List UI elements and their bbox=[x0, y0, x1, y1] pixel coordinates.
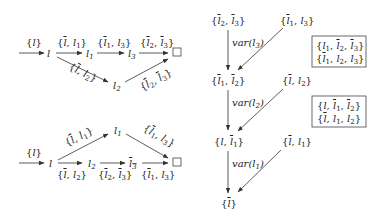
node-l1: l1 bbox=[86, 48, 94, 61]
node-lbar-l1: {l, l1} bbox=[282, 136, 312, 149]
var-label-l1: var(l1) bbox=[232, 158, 264, 171]
diagram-canvas: {l} l {l, l1} l1 {l1, l3} l3 {l2, l3} {l… bbox=[0, 0, 383, 220]
node-end-square bbox=[173, 48, 181, 56]
node-l2: l2 bbox=[88, 158, 96, 171]
node-l: l bbox=[47, 48, 50, 59]
edge-label: {l, l2} bbox=[57, 169, 87, 182]
top-left-graph: {l} l {l, l1} l1 {l1, l3} l3 {l2, l3} {l… bbox=[19, 37, 181, 94]
edge-label: {l2, l3} bbox=[140, 37, 174, 50]
edge-label: {l2, l3} bbox=[138, 67, 175, 95]
var-label-l3: var(l3) bbox=[232, 37, 264, 50]
node-l3: l3 bbox=[128, 48, 136, 61]
node-lbar: {l} bbox=[221, 198, 237, 209]
edge-diag-3 bbox=[238, 150, 281, 192]
edge-diag-2 bbox=[238, 89, 283, 131]
var-label-l2: var(l2) bbox=[232, 97, 264, 110]
right-lattice: {l2, l3} {l1, l3} var(l3) {l1, l2, l3} {… bbox=[211, 15, 366, 209]
bottom-left-graph: {l} l {l, l1} l1 {l1, l3} {l, l2} l2 {l2… bbox=[19, 122, 181, 182]
clause-box-2-line-2: {l, l1, l2} bbox=[317, 113, 361, 126]
edge-label: {l1, l3} bbox=[141, 169, 175, 182]
clause-box-1-line-1: {l1, l2, l3} bbox=[316, 40, 364, 53]
node-end-square bbox=[173, 158, 181, 166]
node-l2bar-l3bar: {l2, l3} bbox=[211, 15, 245, 28]
edge-label: {l2, l3} bbox=[98, 169, 132, 182]
edge-diag-1 bbox=[238, 28, 283, 70]
node-lbar-l2: {l, l2} bbox=[282, 75, 312, 88]
edge-label: {l} bbox=[26, 147, 42, 158]
node-l1: l1 bbox=[114, 125, 122, 138]
edge-label: {l, l1} bbox=[57, 37, 87, 50]
edge-label: {l, l2} bbox=[66, 61, 99, 86]
clause-box-1-line-2: {l1, l2, l3} bbox=[316, 53, 364, 66]
edge-label: {l1, l3} bbox=[97, 37, 131, 50]
edge-label: {l} bbox=[26, 37, 42, 48]
node-l1bar-l3: {l1, l3} bbox=[280, 15, 314, 28]
node-l: l bbox=[49, 158, 52, 169]
node-l-l1bar: {l, l1} bbox=[214, 136, 244, 149]
node-l2: l2 bbox=[113, 80, 121, 93]
clause-box-2-line-1: {l, l1, l2} bbox=[317, 100, 361, 113]
edge-label: {l1, l3} bbox=[141, 122, 177, 150]
node-l1bar-l2bar: {l1, l2} bbox=[211, 75, 245, 88]
edge-label: {l, l1} bbox=[63, 125, 96, 150]
